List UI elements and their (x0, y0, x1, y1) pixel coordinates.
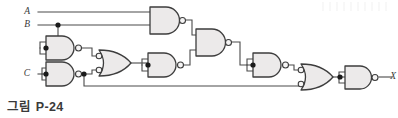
gate-nand-7 (345, 66, 378, 89)
figure-caption: 그림 P-24 (7, 96, 64, 115)
gate-nand-3 (46, 62, 82, 86)
junction-dot (337, 74, 342, 79)
input-label-b: B (24, 19, 30, 29)
figure-container: A B C X 그림 P-24 (0, 0, 398, 118)
output-bubble-icon (283, 62, 289, 68)
junction-dot (55, 22, 60, 27)
gate-nand-2 (46, 36, 82, 60)
output-bubble-icon (180, 18, 186, 24)
junction-dot-group (43, 22, 342, 79)
output-bubble-icon (226, 40, 232, 46)
gate-nand-6 (253, 53, 289, 77)
input-bubble-icon (298, 67, 304, 73)
gate-nand-1 (150, 7, 186, 34)
wire-g7-to-g8 (289, 65, 298, 70)
gate-or-negated-inputs-1 (96, 50, 131, 76)
wire-g5-to-g6 (184, 50, 196, 65)
output-bubble-icon (178, 62, 184, 68)
junction-dot (43, 71, 48, 76)
input-bubble-icon (298, 81, 304, 87)
junction-dot (250, 62, 255, 67)
input-bubble-icon (96, 67, 102, 73)
junction-dot (145, 62, 150, 67)
junction-dot (81, 71, 86, 76)
output-bubble-icon (76, 71, 82, 77)
input-label-a: A (23, 6, 30, 16)
output-label-x: X (389, 71, 397, 81)
gate-nand-4 (148, 53, 184, 77)
gate-nand-5 (196, 29, 232, 56)
output-bubble-icon (76, 45, 82, 51)
output-bubble-icon (372, 75, 378, 81)
wire-g6-to-g7 (232, 42, 253, 65)
gate-or-negated-inputs-2 (298, 64, 333, 90)
junction-dot (43, 45, 48, 50)
input-label-c: C (24, 68, 31, 78)
wire-g2-to-g4 (82, 48, 96, 56)
wire-g1-to-g6 (186, 20, 196, 35)
input-bubble-icon (96, 53, 102, 59)
